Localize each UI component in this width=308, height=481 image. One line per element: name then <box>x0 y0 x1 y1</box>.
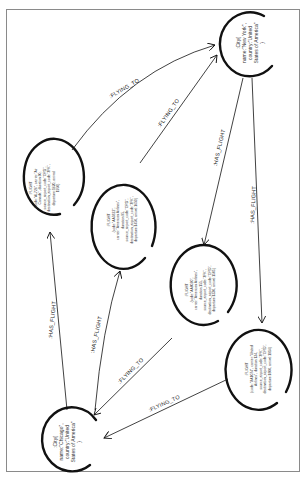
node-new-york-line-5: } <box>259 42 265 44</box>
node-flight-3-line-5: source_airport_code:"JFK", <box>203 269 207 310</box>
node-flight-2-line-4: duration:95, <box>121 211 125 229</box>
node-flight-2[interactable]: :FLIGHT {code:"AA5822", carrier:"America… <box>92 185 156 269</box>
node-flight-1-line-3: Canada", duration:90, <box>38 172 42 205</box>
node-flight-2-line-6: destination_airport_code:"JFK", <box>130 196 134 244</box>
node-flight-3[interactable]: :FLIGHT {code:"AA8020", carrier:"America… <box>171 245 237 325</box>
edge-label-has-flight-2: :HAS_FLIGHT <box>249 186 257 224</box>
node-chicago-line-5: } <box>76 441 82 443</box>
edge-flying-to-4 <box>104 379 228 438</box>
node-flight-3-line-7: departure:1330, arrival:1505} <box>212 267 216 312</box>
node-flight-2-line-1: :FLIGHT <box>107 214 111 227</box>
edge-has-flight-1 <box>204 78 243 245</box>
node-flight-1-line-4: source_airport_code:"ORD", <box>43 167 47 210</box>
edge-flying-to-2 <box>140 55 217 163</box>
node-flight-1-line-1: :FLIGHT <box>29 182 33 195</box>
node-flight-2-line-7: departure:1450, arrival:1650} <box>134 197 138 242</box>
node-flight-4-line-3: Airlines", duration:134, <box>254 352 258 386</box>
node-flight-3-line-3: carrier:"American Airlines", <box>194 270 198 310</box>
node-flight-4-line-4: source_airport_code:"JFK", <box>259 348 263 389</box>
node-flight-4[interactable]: :FLIGHT {code:"UA1074", carrier:"United … <box>226 330 292 410</box>
node-flight-2-line-5: source_airport_code:"ORD", <box>125 199 129 242</box>
node-flight-3-line-2: {code:"AA8020", <box>190 278 194 303</box>
node-flight-1-line-5: destination_airport_code:"JFK", <box>47 164 51 212</box>
node-flight-4-line-5: destination_airport_code:"ORD", <box>263 344 267 393</box>
edge-flying-to-1 <box>72 45 215 150</box>
node-flight-2-line-3: carrier:"American Airlines", <box>116 200 120 240</box>
node-flight-1[interactable]: :FLIGHT {code:"AL726", carrier:"Air Cana… <box>24 139 84 215</box>
graph-diagram: :FLYING_TO :FLYING_TO :HAS_FLIGHT :HAS_F… <box>0 0 308 481</box>
edge-label-has-flight-3: :HAS_FLIGHT <box>47 300 57 339</box>
node-chicago[interactable]: :City{ name:"Chicago", country:"United S… <box>42 407 96 471</box>
node-flight-1-line-7: 1950} <box>56 183 60 193</box>
edge-label-flying-to-4: :FLYING_TO <box>148 393 182 412</box>
edge-label-has-flight-4: :HAS_FLIGHT <box>89 315 103 354</box>
node-flight-3-line-6: destination_airport_code:"ORD", <box>208 265 212 314</box>
edge-has-flight-4 <box>95 271 120 410</box>
node-flight-2-line-2: {code:"AA5822", <box>112 208 116 233</box>
node-new-york[interactable]: :City{ name:"New York", country:"United … <box>220 12 272 76</box>
node-flight-1-line-2: {code:"AL726", carrier:"Air <box>34 167 38 207</box>
node-flight-4-line-1: :FLIGHT <box>245 363 249 376</box>
node-flight-1-line-6: departure:1620, arrival: <box>52 170 56 205</box>
edge-label-flying-to-1: :FLYING_TO <box>108 77 141 99</box>
node-flight-4-line-6: departure:1800, arrival:1914} <box>268 346 272 391</box>
edge-label-flying-to-3: :FLYING_TO <box>117 356 145 384</box>
node-flight-3-line-4: duration:155, <box>199 280 203 300</box>
node-flight-3-line-1: :FLIGHT <box>185 284 189 297</box>
edge-label-has-flight-1: :HAS_FLIGHT <box>212 128 226 166</box>
node-flight-4-line-2: {code:"UA1074", carrier:"United <box>250 345 254 393</box>
